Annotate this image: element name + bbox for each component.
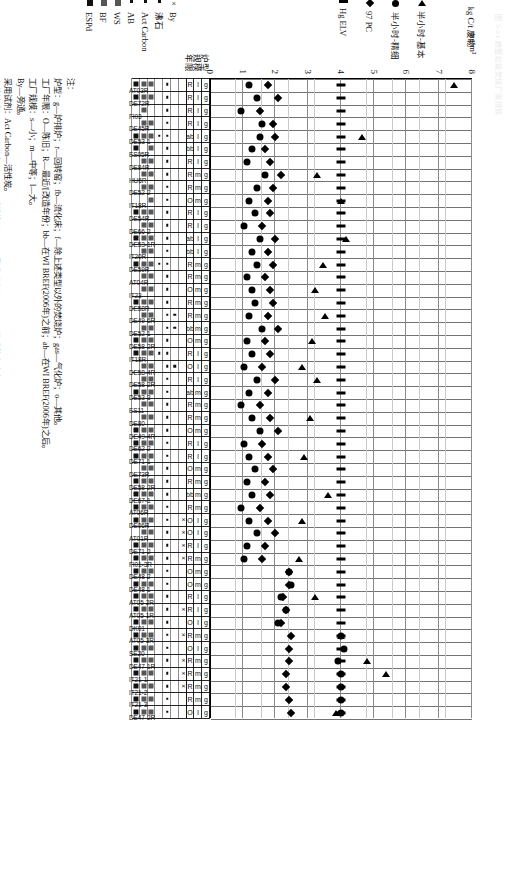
series-legend-item: 半小时-基本 — [414, 0, 432, 59]
faint-header: 图 3-21 欧盟垃圾焚烧厂汞排放 — [494, 14, 504, 116]
table-cell-year: R — [188, 478, 193, 485]
plot-column-separator — [211, 79, 472, 80]
table-cell-year: R — [188, 222, 193, 229]
table-cell-technique — [166, 621, 169, 624]
category-label: DE67-1 — [129, 497, 150, 504]
data-point-triangle — [358, 134, 366, 140]
table-cell-year: ab — [187, 235, 195, 242]
data-point-dash — [337, 634, 346, 637]
table-cell-technique — [166, 122, 169, 125]
data-point-triangle — [450, 82, 458, 88]
table-cell-year: O — [188, 465, 193, 472]
plot-column-separator — [211, 245, 472, 246]
table-cell-furnace: g — [204, 183, 208, 190]
table-cell-technique — [133, 671, 138, 676]
table-cell-furnace: g — [204, 542, 208, 549]
table-cell-furnace: g — [204, 119, 208, 126]
table-cell-technique — [149, 696, 154, 701]
category-label: ES11 — [129, 407, 144, 414]
y-axis-tick: 3 — [303, 44, 313, 74]
y-axis-tick: 7 — [434, 44, 444, 74]
data-point-triangle — [313, 377, 321, 383]
x-axis-title: mg/m³ — [468, 32, 478, 54]
plot-gridline — [419, 79, 420, 718]
table-cell-technique — [149, 415, 154, 420]
table-cell-year: R — [188, 695, 193, 702]
table-cell-furnace: g — [204, 465, 208, 472]
table-cell-technique — [149, 504, 154, 509]
plot-column-separator — [211, 437, 472, 438]
data-point-diamond — [263, 196, 271, 204]
table-cell-technique: × — [180, 518, 185, 522]
category-label: DE45R — [129, 125, 149, 132]
table-cell-year: O — [188, 619, 193, 626]
table-cell-technique — [166, 544, 169, 547]
note-line: 采用试剂：Act Carbon—活性炭。 — [1, 78, 14, 838]
y-axis-tick: 1 — [238, 44, 248, 74]
data-point-dash — [337, 122, 346, 125]
data-point-circle — [243, 543, 250, 550]
table-cell-year: R — [188, 503, 193, 510]
table-cell-technique — [141, 287, 146, 292]
table-cell-technique — [141, 108, 146, 113]
table-cell-furnace: g — [204, 132, 208, 139]
legend-symbol-triangle-icon — [418, 0, 426, 6]
category-label: DK01 — [129, 625, 145, 632]
table-cell-scale: l — [198, 363, 200, 370]
technique-legend-symbol-icon — [115, 0, 121, 6]
table-cell-furnace: g — [204, 375, 208, 382]
table-cell-year: O — [188, 286, 193, 293]
data-point-dash — [337, 532, 346, 535]
data-point-diamond — [266, 414, 274, 422]
table-cell-technique — [149, 172, 154, 177]
table-cell-year: bb — [187, 324, 195, 331]
table-cell-year: ab — [187, 388, 195, 395]
table-cell-year: O — [188, 337, 193, 344]
table-cell-scale: l — [198, 145, 200, 152]
table-cell-technique — [149, 607, 154, 612]
data-point-dash — [337, 238, 346, 241]
table-cell-technique: × — [180, 543, 185, 547]
table-cell-technique — [133, 620, 138, 625]
data-point-circle — [254, 530, 261, 537]
table-cell-technique — [166, 672, 169, 675]
plot-column-separator — [211, 348, 472, 349]
table-cell-furnace: g — [204, 529, 208, 536]
category-label: IT21-3 — [129, 701, 147, 708]
data-point-diamond — [271, 132, 279, 140]
table-cell-technique — [166, 467, 169, 470]
table-cell-technique — [166, 493, 169, 496]
table-cell-technique — [133, 543, 138, 548]
table-cell-technique — [141, 364, 146, 369]
data-point-triangle — [313, 172, 321, 178]
category-label: DE58R — [129, 305, 149, 312]
category-label: DE71-1 — [129, 458, 150, 465]
plot-gridline-major — [242, 79, 243, 718]
table-cell-furnace: g — [204, 657, 208, 664]
table-cell-year: R — [188, 414, 193, 421]
table-cell-technique — [166, 429, 169, 432]
table-cell-technique — [166, 570, 169, 573]
table-cell-technique — [166, 96, 169, 99]
table-cell-furnace: g — [204, 363, 208, 370]
plot-column-separator — [211, 284, 472, 285]
data-point-diamond — [263, 312, 271, 320]
table-cell-technique — [158, 352, 161, 355]
table-cell-technique — [141, 543, 146, 548]
legend-symbol-dash-icon — [339, 0, 348, 3]
data-point-diamond — [263, 388, 271, 396]
plot-column-separator — [211, 181, 472, 182]
plot-column-separator — [211, 604, 472, 605]
note-line: 安装技术：AB—吸附床；WS—湿式洗涤器；BF—袋式过滤器；ESPd—干式静电除… — [0, 78, 1, 838]
table-cell-furnace: g — [204, 670, 208, 677]
data-point-dash — [337, 506, 346, 509]
data-point-circle — [238, 402, 245, 409]
data-point-dash — [337, 481, 346, 484]
data-point-circle — [259, 325, 266, 332]
data-point-diamond — [269, 465, 277, 473]
figure-notes: 注： 炉型：g—炉排炉；r—回转窑；fb—流化床；f—除上述类型以外的焚烧炉；g… — [0, 78, 76, 838]
data-point-circle — [246, 312, 253, 319]
table-cell-furnace: g — [204, 683, 208, 690]
table-cell-year: R — [188, 209, 193, 216]
category-label: DE58-2R — [129, 343, 155, 350]
